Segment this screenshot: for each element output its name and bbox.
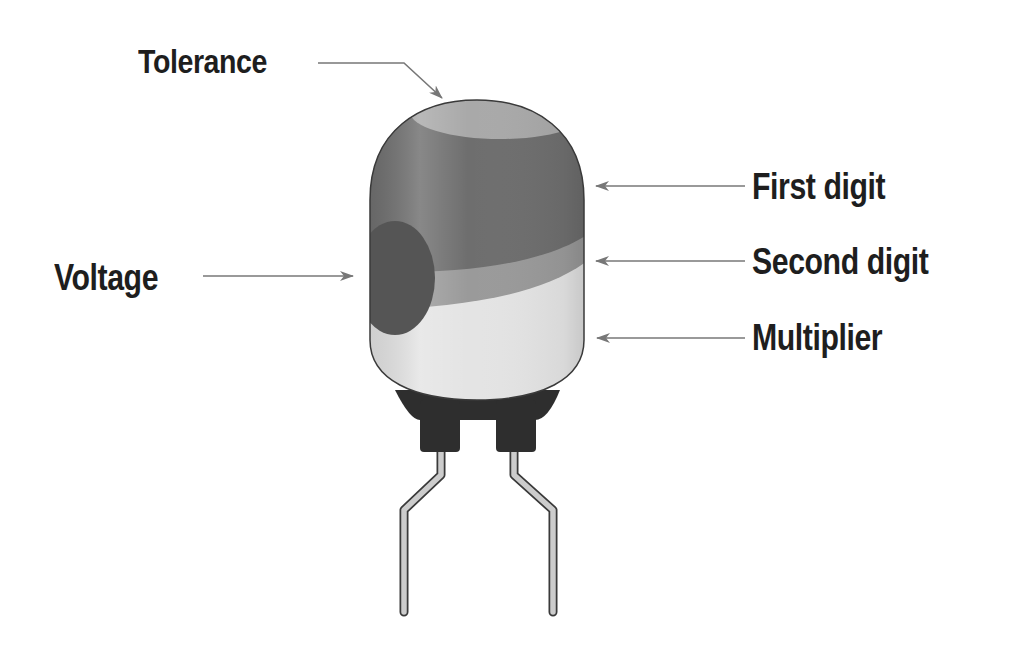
- tolerance-arrow: [318, 63, 442, 98]
- first-digit-label: First digit: [752, 166, 885, 208]
- second-digit-label: Second digit: [752, 241, 928, 283]
- multiplier-label: Multiplier: [752, 317, 882, 359]
- voltage-dot: [355, 221, 435, 335]
- voltage-label: Voltage: [54, 257, 158, 299]
- tolerance-label: Tolerance: [138, 42, 267, 81]
- capacitor-diagram: Tolerance First digit Second digit Multi…: [0, 0, 1022, 658]
- lead-wires: [404, 450, 553, 612]
